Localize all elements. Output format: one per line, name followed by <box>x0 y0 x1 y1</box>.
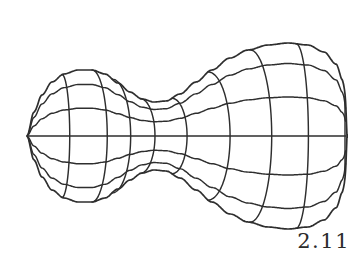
surface-of-revolution-wireframe <box>0 0 364 258</box>
figure-number-label: 2.11 <box>297 231 350 252</box>
figure-page: 2.11 <box>0 0 364 258</box>
wireframe-group <box>27 43 347 229</box>
